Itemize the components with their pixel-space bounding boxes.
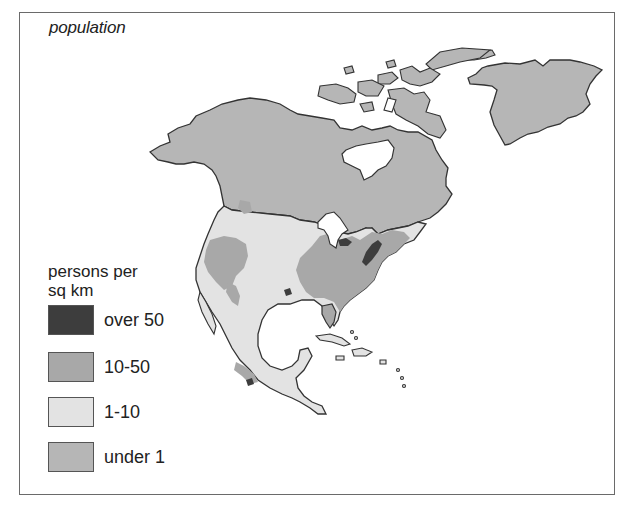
legend-swatch-10-50 bbox=[48, 352, 94, 382]
legend-title: persons per sq km bbox=[48, 262, 138, 300]
legend-item-under-1: under 1 bbox=[48, 442, 165, 472]
legend-title-line1: persons per bbox=[48, 262, 138, 281]
arctic-archipelago bbox=[318, 48, 490, 138]
north-america-population-map bbox=[0, 0, 630, 505]
legend-label: 10-50 bbox=[104, 357, 150, 378]
legend-swatch-1-10 bbox=[48, 397, 94, 427]
legend-swatch-under-1 bbox=[48, 442, 94, 472]
legend-title-line2: sq km bbox=[48, 281, 138, 300]
legend-item-10-50: 10-50 bbox=[48, 352, 150, 382]
legend-swatch-over-50 bbox=[48, 305, 94, 335]
legend-label: over 50 bbox=[104, 310, 164, 331]
legend-label: 1-10 bbox=[104, 402, 140, 423]
legend-item-1-10: 1-10 bbox=[48, 397, 140, 427]
legend-label: under 1 bbox=[104, 447, 165, 468]
greenland bbox=[468, 60, 602, 145]
map-title: population bbox=[49, 18, 125, 38]
caribbean-islands bbox=[316, 331, 406, 388]
legend-item-over-50: over 50 bbox=[48, 305, 164, 335]
